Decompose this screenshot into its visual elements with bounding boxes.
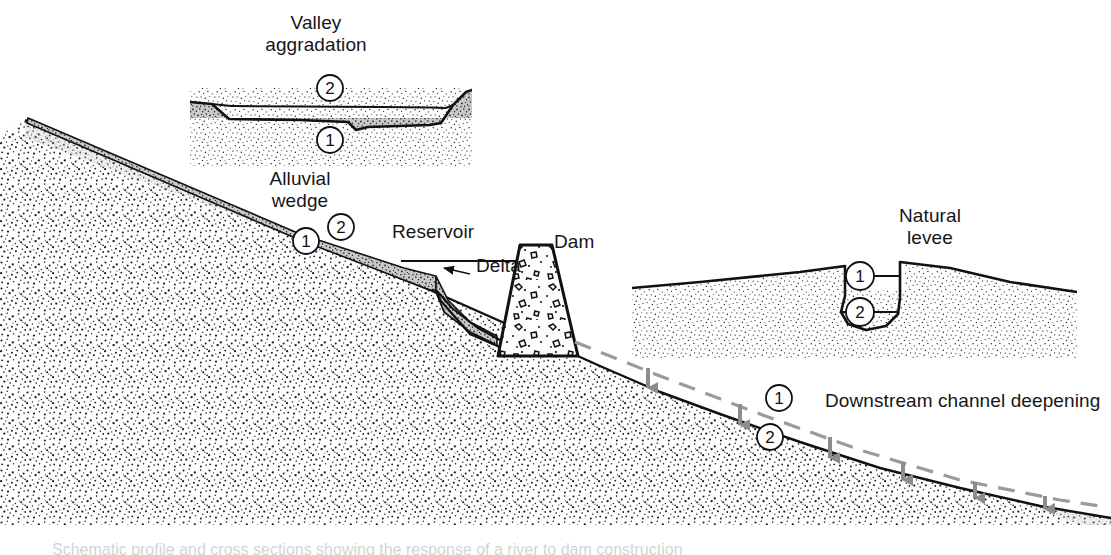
label-alluvial-wedge: Alluvial wedge xyxy=(230,168,370,212)
inset-natural-levee xyxy=(632,258,1077,358)
figure-caption: Schematic profile and cross sections sho… xyxy=(52,541,1072,555)
label-dam: Dam xyxy=(554,231,624,253)
label-delta: Delta xyxy=(476,255,566,277)
label-reservoir: Reservoir xyxy=(392,221,512,243)
label-valley-aggradation: Valley aggradation xyxy=(236,12,396,56)
diagram-svg xyxy=(0,0,1111,555)
label-downstream-channel-deepening: Downstream channel deepening xyxy=(825,390,1111,412)
label-natural-levee: Natural levee xyxy=(860,205,1000,249)
inset-valley-aggradation xyxy=(190,88,472,166)
delta-leader-arrow xyxy=(444,268,470,274)
figure-canvas: 2 1 2 1 1 2 1 xyxy=(0,0,1111,555)
